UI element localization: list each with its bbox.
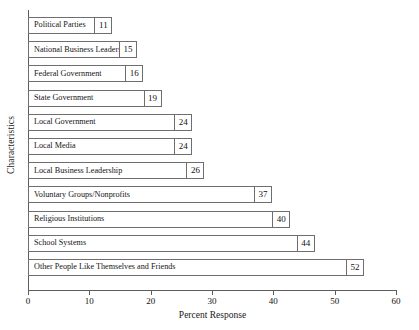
bar-row: School Systems44: [28, 235, 315, 252]
bar-row: State Government19: [28, 90, 162, 107]
bar-row: Religious Institutions40: [28, 211, 290, 228]
y-axis-title: Characteristics: [0, 0, 22, 290]
bar-series: Political Parties11National Business Lea…: [28, 10, 396, 290]
bar-value-label: 24: [179, 142, 188, 151]
bar-value-box: 11: [95, 17, 112, 34]
bar-value-label: 52: [350, 263, 359, 272]
plot-area: Political Parties11National Business Lea…: [28, 10, 396, 290]
bar-body: Local Business Leadership: [28, 162, 187, 179]
x-axis-tick: [335, 290, 336, 295]
x-axis-tick-label: 20: [136, 296, 166, 306]
x-axis-tick: [273, 290, 274, 295]
bar-value-label: 15: [124, 45, 133, 54]
bar-body: National Business Leadership: [28, 41, 120, 58]
bar-value-label: 37: [258, 190, 267, 199]
x-axis-tick: [89, 290, 90, 295]
bar-category-label: Local Media: [29, 142, 76, 150]
bar-body: Local Government: [28, 114, 175, 131]
bar-category-label: Other People Like Themselves and Friends: [29, 263, 176, 271]
bar-row: Local Business Leadership26: [28, 162, 204, 179]
bar-body: School Systems: [28, 235, 298, 252]
bar-value-box: 16: [126, 65, 143, 82]
bar-value-label: 26: [191, 166, 200, 175]
x-axis-tick-label: 50: [320, 296, 350, 306]
bar-value-label: 11: [99, 21, 108, 30]
x-axis-tick: [212, 290, 213, 295]
x-axis-tick-label: 40: [258, 296, 288, 306]
bar-body: Local Media: [28, 138, 175, 155]
bar-row: Local Media24: [28, 138, 192, 155]
bar-category-label: State Government: [29, 94, 93, 102]
bar-category-label: Federal Government: [29, 70, 102, 78]
bar-category-label: National Business Leadership: [29, 46, 120, 54]
bar-value-box: 24: [175, 138, 192, 155]
x-axis-tick-label: 60: [381, 296, 411, 306]
bar-row: Voluntary Groups/Nonprofits37: [28, 186, 272, 203]
bar-row: National Business Leadership15: [28, 41, 137, 58]
bar-value-box: 15: [120, 41, 137, 58]
bar-value-box: 40: [273, 211, 290, 228]
bar-body: Voluntary Groups/Nonprofits: [28, 186, 255, 203]
x-axis-tick: [151, 290, 152, 295]
bar-value-label: 40: [277, 215, 286, 224]
x-axis-tick-label: 10: [74, 296, 104, 306]
bar-row: Federal Government16: [28, 65, 143, 82]
x-axis-tick: [28, 290, 29, 295]
bar-category-label: Local Business Leadership: [29, 167, 122, 175]
x-axis-tick-label: 0: [13, 296, 43, 306]
bar-chart: Characteristics Political Parties11Natio…: [0, 0, 419, 330]
bar-value-box: 26: [187, 162, 204, 179]
x-axis-tick: [396, 290, 397, 295]
bar-category-label: Religious Institutions: [29, 215, 104, 223]
bar-value-label: 44: [301, 239, 310, 248]
bar-body: Other People Like Themselves and Friends: [28, 259, 347, 276]
bar-value-box: 19: [145, 90, 162, 107]
x-axis-title: Percent Response: [28, 310, 397, 320]
bar-value-box: 24: [175, 114, 192, 131]
y-axis-title-label: Characteristics: [6, 116, 16, 174]
bar-value-label: 19: [148, 94, 157, 103]
bar-category-label: School Systems: [29, 239, 86, 247]
bar-row: Other People Like Themselves and Friends…: [28, 259, 364, 276]
bar-value-label: 16: [130, 69, 139, 78]
bar-value-box: 52: [347, 259, 364, 276]
bar-body: Federal Government: [28, 65, 126, 82]
bar-body: Religious Institutions: [28, 211, 273, 228]
bar-row: Political Parties11: [28, 17, 112, 34]
bar-value-label: 24: [179, 118, 188, 127]
bar-body: State Government: [28, 90, 145, 107]
bar-category-label: Political Parties: [29, 21, 86, 29]
bar-value-box: 37: [255, 186, 272, 203]
bar-body: Political Parties: [28, 17, 95, 34]
bar-category-label: Voluntary Groups/Nonprofits: [29, 191, 130, 199]
x-axis-tick-label: 30: [197, 296, 227, 306]
bar-category-label: Local Government: [29, 118, 96, 126]
bar-value-box: 44: [298, 235, 315, 252]
bar-row: Local Government24: [28, 114, 192, 131]
